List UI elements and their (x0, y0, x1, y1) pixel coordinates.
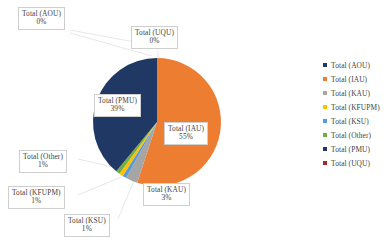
legend-swatch-icon-ksu (323, 119, 327, 123)
legend-label-iau: Total (IAU) (331, 75, 367, 84)
legend-item-kfupm[interactable]: Total (KFUPM) (322, 100, 392, 114)
legend-label-ksu: Total (KSU) (331, 117, 369, 126)
callout-aou: Total (AOU) 0% (18, 7, 65, 30)
legend-swatch-icon-uqu (323, 161, 327, 165)
leader-line-kfupm (78, 173, 131, 195)
legend-item-iau[interactable]: Total (IAU) (322, 72, 392, 86)
legend-swatch-icon-aou (323, 63, 327, 67)
callout-pmu-pct: 39% (98, 105, 137, 113)
legend-label-pmu: Total (PMU) (331, 145, 370, 154)
leader-line-aou (70, 30, 140, 43)
callout-kfupm-pct: 1% (12, 197, 61, 205)
callout-ksu: Total (KSU) 1% (64, 214, 110, 237)
legend-label-kfupm: Total (KFUPM) (331, 103, 380, 112)
callout-iau: Total (IAU) 55% (164, 122, 208, 145)
callout-pmu: Total (PMU) 39% (94, 94, 141, 117)
callout-other-pct: 1% (23, 161, 63, 169)
callout-kau: Total (KAU) 3% (143, 183, 190, 206)
callout-other: Total (Other) 1% (19, 150, 67, 173)
legend-item-aou[interactable]: Total (AOU) (322, 58, 392, 72)
legend-item-uqu[interactable]: Total (UQU) (322, 156, 392, 170)
legend-label-kau: Total (KAU) (331, 89, 370, 98)
callout-kau-pct: 3% (147, 194, 186, 202)
callout-uqu-pct: 0% (135, 37, 174, 45)
legend-swatch-icon-kfupm (323, 105, 327, 109)
pie-chart-figure: Total (AOU) 0% Total (UQU) 0% Total (PMU… (0, 0, 392, 248)
legend-swatch-icon-other (323, 133, 327, 137)
leader-line-ksu (118, 176, 136, 219)
legend-swatch-icon-pmu (323, 147, 327, 151)
legend-label-aou: Total (AOU) (331, 61, 370, 70)
callout-kfupm: Total (KFUPM) 1% (8, 186, 65, 209)
legend-label-other: Total (Other) (331, 131, 371, 140)
legend-swatch-icon-iau (323, 77, 327, 81)
legend-item-ksu[interactable]: Total (KSU) (322, 114, 392, 128)
callout-ksu-pct: 1% (68, 225, 106, 233)
callout-iau-pct: 55% (168, 133, 204, 141)
legend-item-other[interactable]: Total (Other) (322, 128, 392, 142)
legend-item-pmu[interactable]: Total (PMU) (322, 142, 392, 156)
callout-aou-pct: 0% (22, 18, 61, 26)
callout-uqu: Total (UQU) 0% (131, 26, 178, 49)
chart-legend: Total (AOU) Total (IAU) Total (KAU) Tota… (322, 58, 392, 170)
legend-item-kau[interactable]: Total (KAU) (322, 86, 392, 100)
legend-swatch-icon-kau (323, 91, 327, 95)
legend-label-uqu: Total (UQU) (331, 159, 370, 168)
